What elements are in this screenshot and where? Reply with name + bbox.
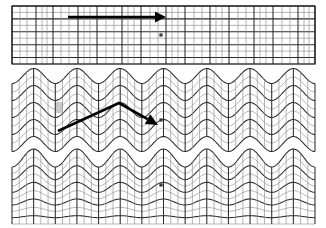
panel-top-marker-dot <box>159 33 162 36</box>
panel-bottom-marker-dot <box>159 183 162 186</box>
mesh-deformation-figure <box>0 0 326 228</box>
figure-canvas <box>0 0 326 228</box>
panel-middle-marker-dot <box>159 118 162 121</box>
panel-middle-shaded-cell <box>56 102 63 113</box>
